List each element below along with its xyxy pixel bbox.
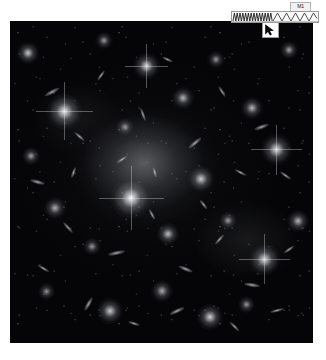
screenshot-root: M1 (0, 0, 326, 360)
galaxy-cluster-image (10, 21, 313, 343)
waveform-svg (232, 12, 318, 22)
overlay-widget: M1 (231, 2, 319, 38)
arrow-pointer-icon (263, 23, 278, 37)
background-starfield (10, 21, 313, 343)
cursor-indicator[interactable] (262, 22, 279, 38)
